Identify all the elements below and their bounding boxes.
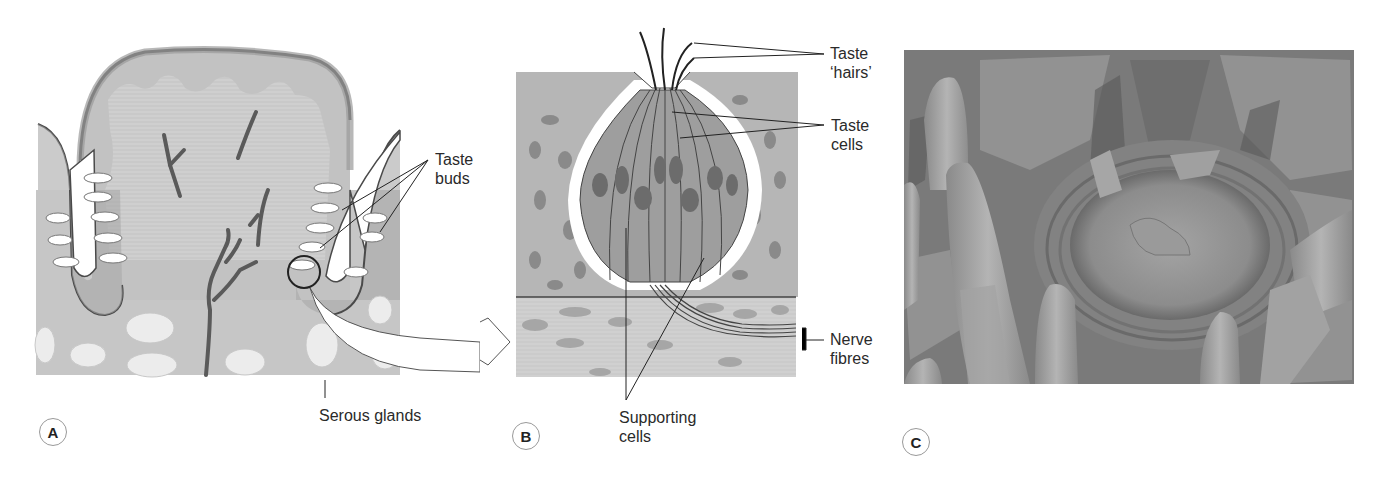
panel-c-badge: C xyxy=(902,428,930,456)
label-supporting-cells: Supporting cells xyxy=(619,408,696,446)
panel-b: Taste ‘hairs’ Taste cells Nerve fibres S… xyxy=(480,0,900,478)
panel-a: Taste buds Serous glands A xyxy=(0,0,480,478)
label-taste-cells: Taste cells xyxy=(831,116,869,154)
sem-micrograph xyxy=(890,0,1380,478)
label-serous-glands: Serous glands xyxy=(319,406,421,425)
panel-a-badge: A xyxy=(39,418,67,446)
panel-b-badge: B xyxy=(512,422,540,450)
label-nerve-fibres: Nerve fibres xyxy=(830,330,873,368)
panel-c: C xyxy=(890,0,1380,478)
label-taste-buds: Taste buds xyxy=(435,150,473,188)
label-taste-hairs: Taste ‘hairs’ xyxy=(830,44,872,82)
